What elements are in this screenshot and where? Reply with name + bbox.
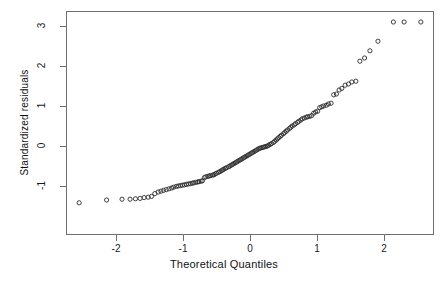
y-axis-label: Standardized residuals xyxy=(19,23,30,223)
y-tick-label: 0 xyxy=(36,131,47,161)
y-tick-mark xyxy=(60,146,66,147)
y-tick-mark xyxy=(60,186,66,187)
x-tick-mark xyxy=(317,235,318,241)
x-axis-label: Theoretical Quantiles xyxy=(0,258,448,270)
x-tick-mark xyxy=(116,235,117,241)
y-tick-label: 1 xyxy=(36,91,47,121)
y-tick-mark xyxy=(60,66,66,67)
y-tick-label: 2 xyxy=(36,51,47,81)
y-tick-mark xyxy=(60,106,66,107)
x-tick-label: 0 xyxy=(230,243,270,254)
y-tick-label: -1 xyxy=(36,171,47,201)
x-tick-label: -2 xyxy=(96,243,136,254)
y-tick-mark xyxy=(60,26,66,27)
x-tick-label: 2 xyxy=(364,243,404,254)
x-tick-mark xyxy=(183,235,184,241)
x-tick-mark xyxy=(384,235,385,241)
plot-panel xyxy=(66,11,434,235)
qq-plot-figure: -2-1012 -10123 Theoretical Quantiles Sta… xyxy=(0,0,448,283)
x-tick-label: 1 xyxy=(297,243,337,254)
x-tick-label: -1 xyxy=(163,243,203,254)
x-tick-mark xyxy=(250,235,251,241)
y-tick-label: 3 xyxy=(36,11,47,41)
